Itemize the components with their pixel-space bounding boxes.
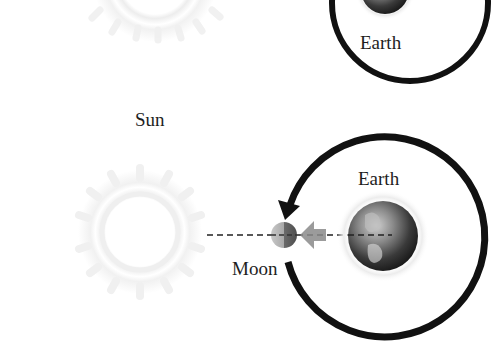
pull-arrow-icon [300, 221, 326, 249]
sun-label: Sun [135, 110, 165, 129]
sun-top-icon [92, 0, 220, 42]
earth-bottom-label: Earth [358, 169, 399, 188]
earth-top-icon [355, 0, 415, 20]
moon-icon [271, 222, 297, 248]
earth-bottom-icon [337, 190, 429, 282]
orbit-top [332, 0, 488, 81]
moon-label: Moon [232, 259, 277, 278]
earth-top-label: Earth [360, 33, 401, 52]
diagram-canvas: Earth Sun Earth Moon [0, 0, 491, 349]
orbit-arrowhead-icon [278, 200, 300, 220]
sun-bottom-icon [78, 168, 202, 296]
